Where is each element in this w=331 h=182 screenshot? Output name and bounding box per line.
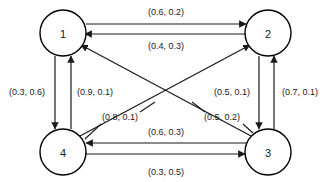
node-4[interactable]: 4 [40, 129, 86, 175]
edge-label-4-to-1: (0.9, 0.1) [77, 87, 113, 97]
node-2[interactable]: 2 [245, 10, 291, 56]
edge-label-2-to-3: (0.5, 0.1) [214, 87, 250, 97]
leader-line-edge-3-to-1 [243, 124, 253, 133]
edge-label-3-to-4: (0.6, 0.3) [148, 127, 184, 137]
edge-label-2-to-1: (0.4, 0.3) [148, 41, 184, 51]
leader-line-edge-4-to-2-b [140, 102, 155, 112]
edge-label-1-to-4: (0.3, 0.6) [9, 87, 45, 97]
node-1-label: 1 [60, 28, 66, 40]
edge-label-4-to-3: (0.3, 0.5) [148, 167, 184, 177]
edge-label-1-to-2: (0.6, 0.2) [148, 7, 184, 17]
node-3-label: 3 [265, 147, 271, 159]
graph-figure: 1 2 3 4 (0.6, 0.2) (0.4, 0.3) (0.3, 0.6)… [0, 0, 331, 182]
node-4-label: 4 [60, 147, 66, 159]
leader-line-edge-3-to-1-b [192, 102, 205, 112]
node-3[interactable]: 3 [245, 129, 291, 175]
edge-label-4-to-2: (0.8, 0.1) [102, 112, 138, 122]
edge-label-3-to-1: (0.5, 0.2) [204, 112, 240, 122]
node-2-label: 2 [265, 28, 271, 40]
graph-canvas: 1 2 3 4 (0.6, 0.2) (0.4, 0.3) (0.3, 0.6)… [0, 0, 331, 182]
node-1[interactable]: 1 [40, 10, 86, 56]
edge-label-3-to-2: (0.7, 0.1) [282, 87, 318, 97]
